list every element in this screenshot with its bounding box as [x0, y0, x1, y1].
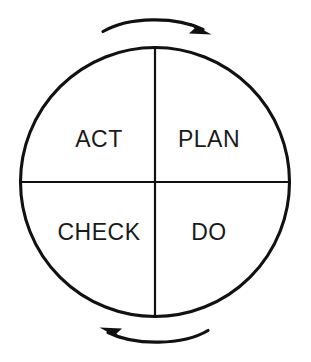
top-arrowhead-icon [189, 23, 212, 35]
bottom-arrowhead-icon [100, 328, 123, 340]
pdca-cycle-diagram: ACT PLAN CHECK DO [0, 0, 311, 362]
quadrant-label-act: ACT [75, 126, 123, 152]
bottom-rotation-arc [108, 331, 208, 343]
pdca-diagram-canvas: ACT PLAN CHECK DO [0, 0, 311, 362]
top-rotation-arc [103, 20, 203, 32]
quadrant-label-plan: PLAN [178, 126, 240, 152]
quadrant-label-check: CHECK [57, 219, 140, 245]
quadrant-label-do: DO [191, 219, 227, 245]
